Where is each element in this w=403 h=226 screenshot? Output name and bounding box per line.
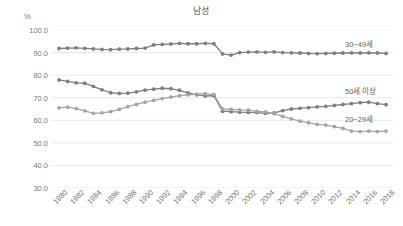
data-point-marker <box>298 119 302 123</box>
data-point-marker <box>375 51 379 55</box>
x-tick-label: 1992 <box>154 188 172 206</box>
x-tick-label: 2004 <box>258 188 276 206</box>
data-point-marker <box>324 123 328 127</box>
x-tick-label: 2002 <box>241 188 259 206</box>
data-point-marker <box>57 106 61 110</box>
data-point-marker <box>350 51 354 55</box>
data-point-marker <box>238 51 242 55</box>
data-point-marker <box>100 88 104 92</box>
data-point-marker <box>126 91 130 95</box>
data-point-marker <box>212 93 216 97</box>
data-point-marker <box>66 105 70 109</box>
data-point-marker <box>341 127 345 131</box>
data-point-marker <box>66 80 70 84</box>
x-axis-tick-labels: 1980198219841986198819901992199419961998… <box>52 188 393 226</box>
data-point-marker <box>117 108 121 112</box>
data-point-marker <box>384 52 388 56</box>
data-point-marker <box>203 92 207 96</box>
data-point-marker <box>358 51 362 55</box>
data-point-marker <box>298 51 302 55</box>
data-point-marker <box>281 115 285 119</box>
data-point-marker <box>272 112 276 116</box>
data-point-marker <box>229 108 233 112</box>
data-point-marker <box>135 47 139 51</box>
chart-svg <box>52 30 393 188</box>
x-tick-label: 1996 <box>189 188 207 206</box>
x-tick-label: 1986 <box>103 188 121 206</box>
data-point-marker <box>298 106 302 110</box>
data-point-marker <box>169 95 173 99</box>
data-point-marker <box>212 42 216 46</box>
data-point-marker <box>375 102 379 106</box>
data-point-marker <box>332 103 336 107</box>
data-point-marker <box>135 90 139 94</box>
plot-area <box>52 30 393 188</box>
data-point-marker <box>332 125 336 129</box>
data-point-marker <box>57 78 61 82</box>
data-point-marker <box>152 87 156 91</box>
x-tick-label: 1980 <box>51 188 69 206</box>
data-point-marker <box>221 52 225 56</box>
x-tick-label: 2016 <box>361 188 379 206</box>
data-point-marker <box>66 46 70 50</box>
x-tick-label: 1984 <box>86 188 104 206</box>
data-point-marker <box>143 88 147 92</box>
y-tick-label: 90.0 <box>8 48 48 57</box>
data-point-marker <box>74 46 78 50</box>
data-point-marker <box>74 107 78 111</box>
data-point-marker <box>332 51 336 55</box>
data-point-marker <box>246 50 250 54</box>
series-label: 50세 이상 <box>345 85 376 96</box>
data-point-marker <box>375 130 379 134</box>
data-point-marker <box>152 99 156 103</box>
x-tick-label: 1998 <box>206 188 224 206</box>
data-point-marker <box>135 103 139 107</box>
data-point-marker <box>307 121 311 125</box>
x-tick-label: 2018 <box>378 188 396 206</box>
data-point-marker <box>83 109 87 113</box>
data-point-marker <box>281 51 285 55</box>
data-point-marker <box>57 47 61 51</box>
data-point-marker <box>238 108 242 112</box>
x-tick-label: 1990 <box>137 188 155 206</box>
data-point-marker <box>126 47 130 51</box>
data-point-marker <box>315 105 319 109</box>
data-point-marker <box>350 129 354 133</box>
x-tick-label: 2008 <box>292 188 310 206</box>
data-point-marker <box>117 47 121 51</box>
data-point-marker <box>160 97 164 101</box>
data-point-marker <box>169 42 173 46</box>
data-point-marker <box>117 92 121 96</box>
y-tick-label: 30.0 <box>8 184 48 193</box>
data-point-marker <box>264 50 268 54</box>
y-tick-label: 80.0 <box>8 71 48 80</box>
data-point-marker <box>109 91 113 95</box>
data-point-marker <box>358 130 362 134</box>
data-point-marker <box>195 42 199 46</box>
data-point-marker <box>109 110 113 114</box>
data-point-marker <box>255 110 259 114</box>
data-point-marker <box>83 81 87 85</box>
data-point-marker <box>367 100 371 104</box>
x-tick-label: 1982 <box>68 188 86 206</box>
y-tick-label: 70.0 <box>8 93 48 102</box>
data-point-marker <box>229 53 233 57</box>
data-point-marker <box>307 106 311 110</box>
x-tick-label: 2014 <box>344 188 362 206</box>
x-tick-label: 1988 <box>120 188 138 206</box>
y-tick-label: 40.0 <box>8 161 48 170</box>
x-tick-label: 2010 <box>309 188 327 206</box>
data-point-marker <box>100 111 104 115</box>
series-label: 30~49세 <box>345 38 373 49</box>
data-point-marker <box>74 81 78 85</box>
data-point-marker <box>203 41 207 45</box>
data-point-marker <box>100 48 104 52</box>
data-point-marker <box>358 101 362 105</box>
data-point-marker <box>350 102 354 106</box>
chart-title: 남성 <box>0 4 403 17</box>
y-axis-tick-labels: 100.090.080.070.060.050.040.030.0 <box>6 0 48 226</box>
data-point-marker <box>324 104 328 108</box>
data-point-marker <box>289 51 293 55</box>
data-point-marker <box>160 43 164 47</box>
data-point-marker <box>324 52 328 56</box>
